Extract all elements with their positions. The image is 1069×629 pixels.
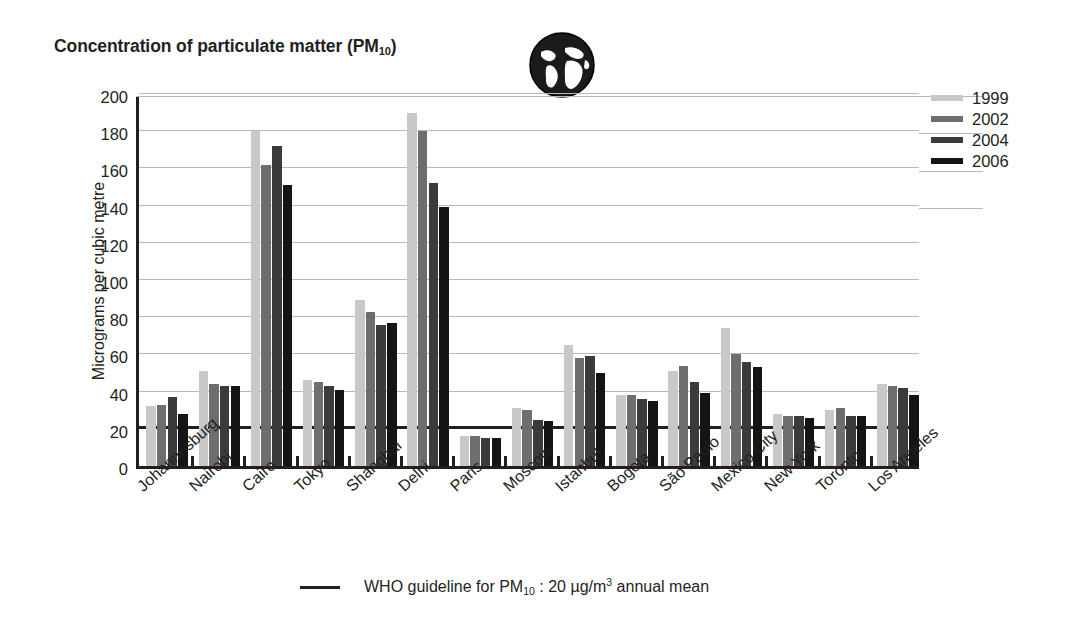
footnote-mid: : 20 µg/m (535, 578, 606, 595)
footnote-tail: annual mean (612, 578, 709, 595)
footnote-prefix: WHO guideline for PM (364, 578, 523, 595)
x-label-paris: Paris (447, 458, 486, 496)
x-label-bogota: Bogota (604, 448, 654, 495)
x-label-los-angeles: Los Angeles (865, 424, 942, 496)
footnote-text: WHO guideline for PM10 : 20 µg/m3 annual… (364, 575, 709, 600)
x-label-tokyo: Tokyo (291, 454, 334, 495)
legend-swatch (931, 158, 963, 164)
legend-swatch (931, 116, 963, 122)
legend-label: 2006 (972, 151, 1009, 171)
legend-label: 2002 (972, 109, 1009, 129)
x-label-nairobi: Nairobi (186, 448, 236, 495)
reference-line-swatch (300, 586, 340, 589)
x-axis-labels: JohannesburgNairobiCairoTokyoShanghaiDel… (0, 0, 1069, 629)
x-label-cairo: Cairo (239, 456, 279, 495)
footnote-subscript: 10 (523, 585, 535, 597)
x-label-moscow: Moscow (500, 443, 556, 496)
legend-swatch (931, 95, 963, 101)
chart-page: Concentration of particulate matter (PM1… (0, 0, 1069, 629)
x-label-shanghai: Shanghai (343, 437, 405, 496)
x-label-delhi: Delhi (395, 458, 434, 496)
legend-swatch (931, 137, 963, 143)
legend-label: 2004 (972, 130, 1009, 150)
x-label-toronto: Toronto (813, 446, 865, 495)
footnote-superscript: 3 (606, 576, 612, 588)
x-label-istanbul: Istanbul (552, 444, 606, 495)
legend-label: 1999 (972, 88, 1009, 108)
